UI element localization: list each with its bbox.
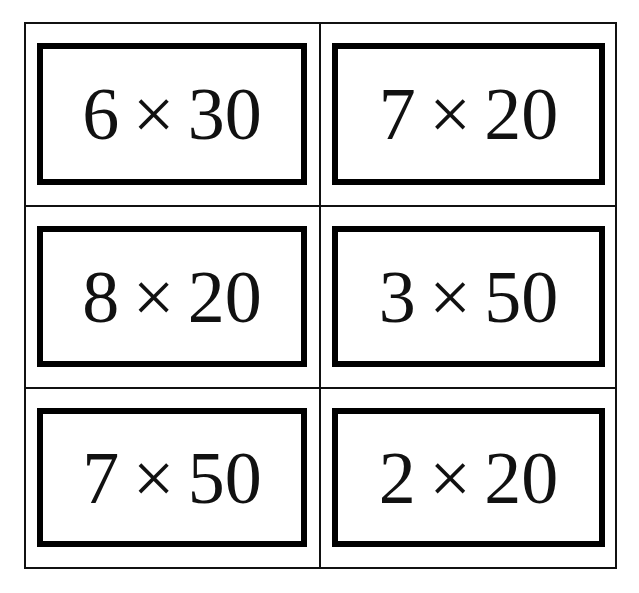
factor-left: 7 [379,73,416,155]
multiplication-card: 7×50 [37,408,307,547]
factor-left: 2 [379,437,416,519]
times-sign: × [133,437,175,519]
factor-right: 30 [188,73,262,155]
times-sign: × [429,256,471,338]
factor-left: 7 [82,437,119,519]
card-cell: 7×50 [26,389,321,567]
multiplication-card: 2×20 [332,408,605,547]
factor-left: 3 [379,256,416,338]
factor-left: 6 [82,73,119,155]
multiplication-card: 3×50 [332,226,605,367]
multiplication-expression: 8×20 [82,260,261,334]
multiplication-card: 8×20 [37,226,307,367]
multiplication-expression: 3×50 [379,260,558,334]
times-sign: × [133,256,175,338]
multiplication-card: 6×30 [37,43,307,185]
factor-right: 20 [484,437,558,519]
card-cell: 6×30 [26,24,321,207]
multiplication-card: 7×20 [332,43,605,185]
multiplication-expression: 7×20 [379,77,558,151]
times-sign: × [429,437,471,519]
factor-right: 50 [484,256,558,338]
factor-right: 50 [188,437,262,519]
card-cell: 7×20 [321,24,617,207]
factor-left: 8 [82,256,119,338]
card-cell: 2×20 [321,389,617,567]
card-cell: 8×20 [26,207,321,389]
card-cell: 3×50 [321,207,617,389]
times-sign: × [429,73,471,155]
multiplication-expression: 6×30 [82,77,261,151]
factor-right: 20 [484,73,558,155]
multiplication-expression: 2×20 [379,441,558,515]
factor-right: 20 [188,256,262,338]
flashcard-grid: 6×30 7×20 8×20 3×50 7×50 2×20 [24,22,617,569]
times-sign: × [133,73,175,155]
multiplication-expression: 7×50 [82,441,261,515]
